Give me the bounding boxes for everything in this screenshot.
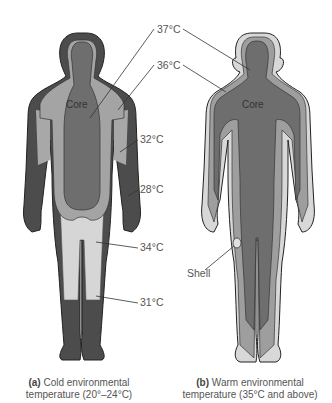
temp-label-32: 32°C (140, 134, 163, 145)
caption-b-line2: temperature (35°C and above) (182, 389, 317, 400)
caption-a-line2: temperature (20°–24°C) (26, 389, 132, 400)
caption-b-tag: (b) (196, 377, 209, 388)
temp-label-28: 28°C (140, 184, 163, 195)
temp-label-37: 37°C (157, 24, 180, 35)
cold-body-figure (23, 33, 140, 360)
shell-label: Shell (187, 268, 210, 279)
caption-a-line1: Cold environmental (43, 377, 129, 388)
warm-body-figure (202, 33, 315, 362)
temp-label-31: 31°C (140, 297, 163, 308)
temp-label-34: 34°C (140, 242, 163, 253)
core-label-a: Core (66, 100, 88, 110)
caption-b: (b) Warm environmental temperature (35°C… (172, 377, 328, 401)
caption-a-tag: (a) (28, 377, 40, 388)
core-label-b: Core (242, 100, 264, 110)
temp-label-36: 36°C (157, 60, 180, 71)
caption-b-line1: Warm environmental (212, 377, 304, 388)
caption-a: (a) Cold environmental temperature (20°–… (14, 377, 144, 401)
